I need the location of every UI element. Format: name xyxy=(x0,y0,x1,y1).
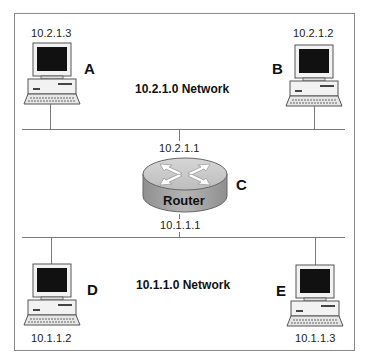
host-b-ip: 10.2.1.2 xyxy=(293,27,334,39)
host-a-ip: 10.2.1.3 xyxy=(31,27,72,39)
network-segment-bottom xyxy=(22,237,345,238)
router-ip-bottom: 10.1.1.1 xyxy=(160,219,201,231)
host-e-link xyxy=(315,237,316,265)
host-b-label: B xyxy=(272,60,283,77)
host-a-link xyxy=(50,104,51,129)
host-a-label: A xyxy=(84,60,95,77)
host-d-link xyxy=(51,237,52,264)
computer-icon xyxy=(285,264,345,329)
router-ip-top: 10.2.1.1 xyxy=(159,142,200,154)
computer-icon xyxy=(22,42,82,107)
network-segment-top xyxy=(22,129,345,130)
host-d-ip: 10.1.1.2 xyxy=(31,332,72,344)
host-d-label: D xyxy=(87,281,98,298)
network-label-bottom: 10.1.1.0 Network xyxy=(136,278,230,292)
host-e-label: E xyxy=(276,282,286,299)
host-e-ip: 10.1.1.3 xyxy=(295,332,336,344)
computer-icon xyxy=(284,44,344,109)
router-link-top xyxy=(179,129,180,141)
router-id-label: C xyxy=(236,176,247,193)
computer-icon xyxy=(22,263,82,328)
router-link-bottom xyxy=(179,214,180,219)
network-label-top: 10.2.1.0 Network xyxy=(135,82,229,96)
router-label: Router xyxy=(163,193,205,208)
host-b-link xyxy=(314,106,315,129)
router-icon xyxy=(142,157,228,217)
router-link-bottom-2 xyxy=(179,232,180,237)
